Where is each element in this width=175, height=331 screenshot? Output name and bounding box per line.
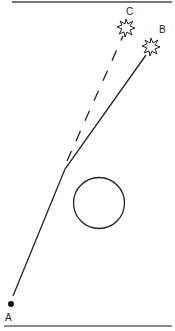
star-burst-c-icon bbox=[117, 19, 135, 37]
label-c: C bbox=[126, 6, 133, 17]
circle-obstacle bbox=[74, 178, 125, 229]
point-a-dot bbox=[8, 301, 14, 307]
label-b: B bbox=[159, 24, 166, 35]
label-a: A bbox=[5, 312, 12, 323]
diagram-canvas: A C B bbox=[0, 0, 175, 331]
star-burst-b-icon bbox=[142, 38, 160, 56]
path-a-to-b bbox=[13, 55, 146, 296]
